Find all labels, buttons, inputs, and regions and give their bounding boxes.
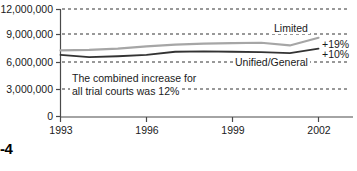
annotation-combined-increase-line2: all trial courts was 12% xyxy=(70,85,181,98)
xtick-label-1993: 1993 xyxy=(40,124,82,136)
series-label-unified-general: Unified/General xyxy=(233,56,310,68)
ytick-label-9000000: 9,000,000 xyxy=(0,28,53,40)
y-axis xyxy=(56,9,61,117)
ytick-label-0: 0 xyxy=(0,110,53,122)
xtick-label-1999: 1999 xyxy=(212,124,254,136)
figure-container: 12,000,000 9,000,000 6,000,000 3,000,000… xyxy=(0,0,357,171)
ytick-label-12000000: 12,000,000 xyxy=(0,3,53,15)
series-limited-line xyxy=(61,38,319,51)
figure-number: -4 xyxy=(0,140,12,157)
series-label-limited: Limited xyxy=(272,22,310,34)
xtick-label-1996: 1996 xyxy=(126,124,168,136)
ytick-label-3000000: 3,000,000 xyxy=(0,83,53,95)
annotation-combined-increase-line1: The combined increase for xyxy=(70,72,198,85)
delta-label-unified-general: +10% xyxy=(322,48,349,60)
x-axis xyxy=(61,117,354,122)
ytick-label-6000000: 6,000,000 xyxy=(0,56,53,68)
xtick-label-2002: 2002 xyxy=(298,124,340,136)
